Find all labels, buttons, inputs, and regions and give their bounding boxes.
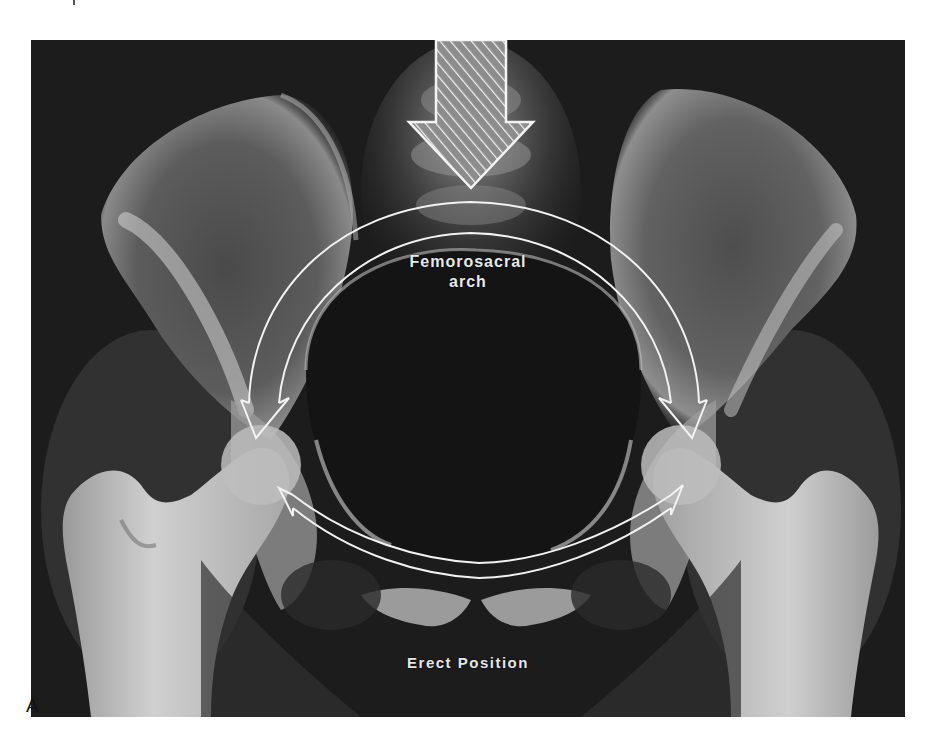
radiograph-illustration (31, 40, 905, 717)
pelvic-inlet (306, 250, 641, 561)
right-femoral-head (641, 425, 721, 505)
figure: Femorosacral arch Erect Position A (0, 0, 941, 749)
panel-letter: A (26, 695, 39, 717)
pelvis-radiograph: Femorosacral arch Erect Position (31, 40, 905, 717)
scan-mark (73, 0, 75, 5)
arch-label-line2: arch (31, 272, 905, 292)
femorosacral-arch-label: Femorosacral arch (31, 252, 905, 292)
erect-position-label: Erect Position (31, 654, 905, 671)
arch-label-line1: Femorosacral (31, 252, 905, 272)
